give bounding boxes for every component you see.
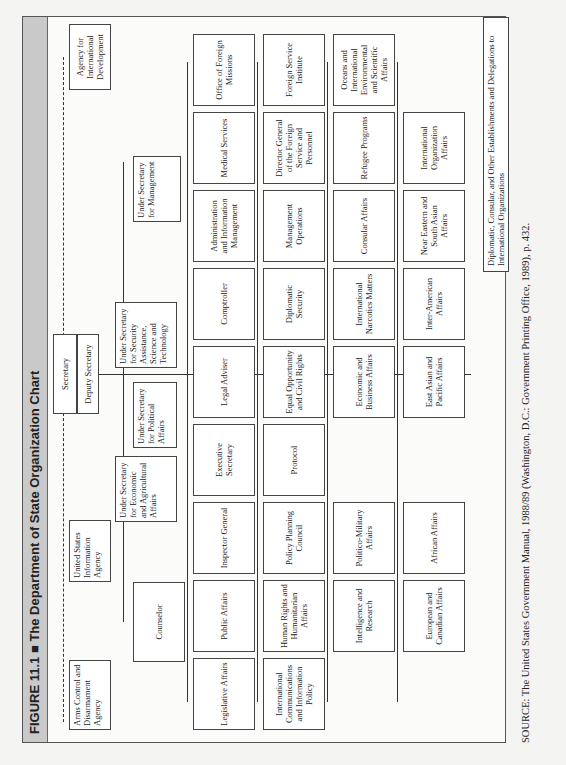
office-box: International Communications and Informa… (263, 658, 325, 730)
office-box: European and Canadian Affairs (403, 580, 465, 652)
office-box: Diplomatic Security (263, 268, 325, 340)
office-box: Office of Foreign Missions (193, 34, 255, 106)
office-box: Director General of the Foreign Service … (263, 112, 325, 184)
row-connector (327, 62, 328, 702)
office-box: Economic and Business Affairs (333, 346, 395, 418)
aid-box: Agency for International Development (69, 24, 111, 90)
security-under-secretary-box: Under Secretary for Security Assistance,… (115, 302, 177, 368)
secretary-box: Secretary (53, 334, 77, 414)
usia-box: United States Information Agency (69, 520, 111, 582)
office-box: Consular Affairs (333, 190, 395, 262)
office-box: Administration and Information Managemen… (193, 190, 255, 262)
office-box: International Narcotics Matters (333, 268, 395, 340)
office-box: Public Affairs (193, 580, 255, 652)
office-box: Medical Services (193, 112, 255, 184)
office-box: Inspector General (193, 502, 255, 574)
econ-under-secretary-box: Under Secretary for Economic and Agricul… (115, 456, 177, 522)
counselor-box: Counselor (133, 582, 185, 662)
office-box: International Organization Affairs (403, 112, 465, 184)
row-connector (257, 62, 258, 702)
row-connector (397, 62, 398, 702)
office-box: Management Operations (263, 190, 325, 262)
office-box: East Asian and Pacific Affairs (403, 346, 465, 418)
office-box: Near Eastern and South Asian Affairs (403, 190, 465, 262)
row-connector (187, 62, 188, 702)
office-box: African Affairs (403, 502, 465, 574)
office-box: Protocol (263, 424, 325, 496)
office-box: Comptroller (193, 268, 255, 340)
office-box: Legal Adviser (193, 346, 255, 418)
office-box: Human Rights and Humanitarian Affairs (263, 580, 325, 652)
office-box: Oceans and International Environmental a… (333, 34, 395, 106)
source-citation: SOURCE: The United States Government Man… (520, 223, 531, 743)
office-box: Executive Secretary (193, 424, 255, 496)
office-box: Foreign Service Institute (263, 34, 325, 106)
rotated-page: FIGURE 11.1 ■ The Department of State Or… (0, 0, 566, 765)
figure-title: FIGURE 11.1 ■ The Department of State Or… (23, 17, 48, 742)
office-box: Politico-Military Affairs (333, 502, 395, 574)
office-box: Inter-American Affairs (403, 268, 465, 340)
office-box: Refugee Programs (333, 112, 395, 184)
office-box: Legislative Affairs (193, 658, 255, 730)
figure-frame: FIGURE 11.1 ■ The Department of State Or… (22, 16, 506, 743)
office-box: Equal Opportunity and Civil Rights (263, 346, 325, 418)
management-under-secretary-box: Under Secretary for Management (133, 156, 181, 222)
political-under-secretary-box: Under Secretary for Political Affairs (133, 382, 177, 448)
deputy-secretary-box: Deputy Secretary (77, 334, 99, 414)
office-box: Intelligence and Research (333, 580, 395, 652)
arms-control-box: Arms Control and Disarmament Agency (69, 660, 111, 730)
office-box: Policy Planning Council (263, 502, 325, 574)
diplomatic-establishments-box: Diplomatic, Consular, and Other Establis… (483, 17, 509, 272)
under-secretary-line (123, 162, 124, 622)
